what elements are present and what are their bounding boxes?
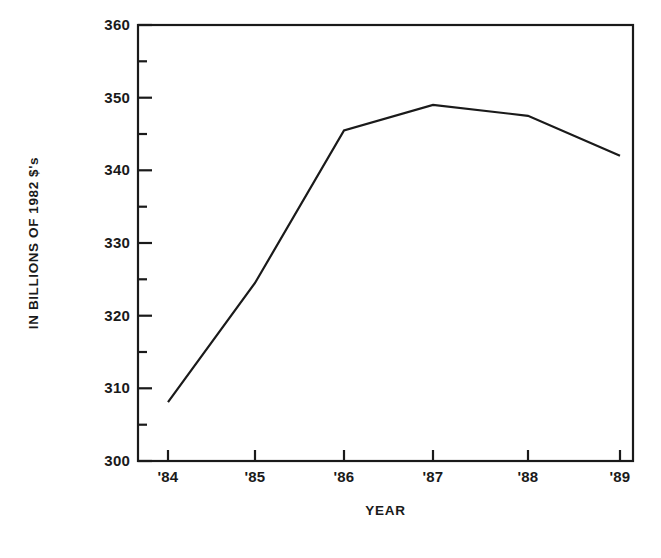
plot-area: [0, 0, 661, 558]
data-series-line: [168, 105, 620, 402]
line-chart: IN BILLIONS OF 1982 $'s 300 310 320 330 …: [0, 0, 661, 558]
y-axis-major-ticks: [138, 25, 152, 461]
plot-frame: [138, 25, 633, 461]
x-axis-ticks: [168, 450, 620, 461]
